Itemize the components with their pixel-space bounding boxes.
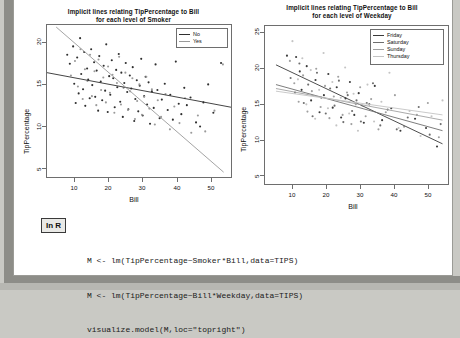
- data-point: [306, 111, 308, 113]
- data-point: [350, 123, 352, 125]
- weekday-plot-legend[interactable]: Friday Saturday Sunday Thursday: [370, 29, 444, 65]
- data-point: [137, 110, 139, 112]
- data-point: [103, 65, 105, 67]
- data-point: [155, 63, 157, 65]
- data-point: [418, 106, 420, 108]
- data-point: [75, 102, 77, 104]
- data-point: [332, 107, 334, 109]
- data-point: [109, 92, 111, 94]
- data-point: [154, 123, 156, 125]
- fit-line: [276, 91, 443, 115]
- data-point: [70, 74, 72, 76]
- data-point: [76, 56, 78, 58]
- data-point: [307, 84, 309, 86]
- data-point: [199, 126, 201, 128]
- data-point: [74, 60, 76, 62]
- smoker-xtick-20: 20: [98, 184, 118, 191]
- legend-label-friday: Friday: [387, 32, 402, 39]
- data-point: [96, 70, 98, 72]
- smoker-xtick-40: 40: [167, 184, 187, 191]
- data-point: [118, 56, 120, 58]
- data-point: [124, 72, 126, 74]
- data-point: [190, 132, 192, 134]
- data-point: [138, 83, 140, 85]
- data-point: [299, 70, 301, 72]
- data-point: [94, 96, 96, 98]
- data-point: [134, 98, 136, 100]
- data-point: [425, 127, 427, 129]
- legend-item-yes[interactable]: Yes: [179, 38, 224, 45]
- data-point: [97, 110, 99, 112]
- data-point: [186, 104, 188, 106]
- data-point: [129, 74, 131, 76]
- data-point: [335, 124, 337, 126]
- data-point: [100, 89, 102, 91]
- data-point: [131, 77, 133, 79]
- data-point: [213, 110, 215, 112]
- data-point: [101, 99, 103, 101]
- data-point: [360, 120, 362, 122]
- weekday-plot: Implicit lines relating TipPercentage to…: [236, 0, 452, 212]
- data-point: [327, 73, 329, 75]
- legend-label-saturday: Saturday: [387, 39, 409, 46]
- legend-swatch-yes: [179, 41, 190, 42]
- data-point: [340, 97, 342, 99]
- data-point: [102, 76, 104, 78]
- data-point: [167, 109, 169, 111]
- data-point: [90, 48, 92, 50]
- data-point: [178, 122, 180, 124]
- data-point: [207, 83, 209, 85]
- legend-item-no[interactable]: No: [179, 31, 224, 38]
- data-point: [145, 76, 147, 78]
- legend-swatch-saturday: [373, 42, 384, 43]
- legend-label-no: No: [193, 31, 200, 38]
- data-point: [79, 37, 81, 39]
- data-point: [109, 94, 111, 96]
- weekday-xtick-20: 20: [316, 191, 336, 198]
- data-point: [173, 105, 175, 107]
- data-point: [149, 123, 151, 125]
- data-point: [312, 115, 314, 117]
- data-point: [327, 107, 329, 109]
- data-point: [336, 86, 338, 88]
- data-point: [303, 102, 305, 104]
- data-point: [328, 117, 330, 119]
- data-point: [342, 114, 344, 116]
- data-point: [370, 98, 372, 100]
- data-point: [323, 94, 325, 96]
- data-point: [97, 59, 99, 61]
- data-point: [441, 99, 443, 101]
- data-point: [80, 73, 82, 75]
- data-point: [98, 55, 100, 57]
- data-point: [380, 101, 382, 103]
- data-point: [399, 130, 401, 132]
- legend-item-friday[interactable]: Friday: [373, 32, 440, 39]
- legend-item-thursday[interactable]: Thursday: [373, 53, 440, 60]
- data-point: [136, 79, 138, 81]
- legend-item-sunday[interactable]: Sunday: [373, 46, 440, 53]
- data-point: [315, 68, 317, 70]
- data-point: [388, 72, 390, 74]
- data-point: [297, 78, 299, 80]
- data-point: [429, 134, 431, 136]
- data-point: [119, 101, 121, 103]
- in-r-badge: In R: [41, 218, 66, 233]
- data-point: [120, 72, 122, 74]
- data-point: [325, 113, 327, 115]
- data-point: [293, 82, 295, 84]
- legend-item-saturday[interactable]: Saturday: [373, 39, 440, 46]
- data-point: [357, 130, 359, 132]
- data-point: [136, 100, 138, 102]
- data-point: [89, 97, 91, 99]
- data-point: [95, 104, 97, 106]
- smoker-plot-legend[interactable]: No Yes: [176, 28, 228, 48]
- data-point: [348, 113, 350, 115]
- legend-swatch-friday: [373, 35, 384, 36]
- smoker-xtick-10: 10: [64, 184, 84, 191]
- data-point: [212, 112, 214, 114]
- data-point: [161, 99, 163, 101]
- data-point: [143, 96, 145, 98]
- data-point: [298, 62, 300, 64]
- weekday-xtickmark-20: [326, 185, 327, 189]
- legend-swatch-no: [179, 34, 190, 35]
